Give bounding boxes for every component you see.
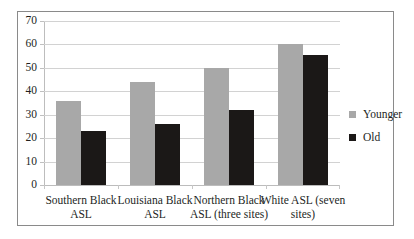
bar-younger-2[interactable]: [204, 68, 229, 185]
bar-old-3[interactable]: [303, 55, 328, 185]
bar-old-2[interactable]: [229, 110, 254, 185]
plot-area: 010203040506070 Southern Black ASLLouisi…: [44, 21, 340, 185]
bar-younger-0[interactable]: [56, 101, 81, 185]
y-tick-label-70: 70: [26, 15, 38, 27]
y-tick-label-10: 10: [26, 156, 38, 168]
category-tick: [339, 185, 340, 189]
legend-swatch-younger-icon: [349, 111, 356, 118]
bar-group: [266, 21, 340, 185]
legend-label-younger: Younger: [363, 109, 402, 121]
bar-younger-1[interactable]: [130, 82, 155, 185]
bar-group: [118, 21, 192, 185]
legend-swatch-old-icon: [349, 134, 356, 141]
legend-label-old: Old: [363, 132, 380, 144]
category-tick: [192, 185, 193, 189]
category-tick: [118, 185, 119, 189]
y-tick-label-20: 20: [26, 132, 38, 144]
legend-item-old[interactable]: Old: [349, 131, 402, 144]
bar-old-1[interactable]: [155, 124, 180, 185]
legend: Younger Old: [349, 108, 402, 154]
bar-younger-3[interactable]: [278, 44, 303, 185]
category-label: White ASL (seven sites): [260, 193, 346, 221]
category-group: White ASL (seven sites): [266, 21, 340, 185]
category-tick: [44, 185, 45, 189]
legend-item-younger[interactable]: Younger: [349, 108, 402, 121]
y-tick-label-0: 0: [31, 179, 37, 191]
category-tick: [266, 185, 267, 189]
y-tick-label-30: 30: [26, 109, 38, 121]
y-tick-label-50: 50: [26, 62, 38, 74]
category-axis: Southern Black ASLLouisiana Black ASLNor…: [44, 21, 340, 185]
bar-group: [192, 21, 266, 185]
bar-group: [44, 21, 118, 185]
y-tick-label-40: 40: [26, 86, 38, 98]
chart-container: 010203040506070 Southern Black ASLLouisi…: [17, 11, 394, 226]
bar-old-0[interactable]: [81, 131, 106, 185]
category-group: Southern Black ASL: [44, 21, 118, 185]
y-tick-label-60: 60: [26, 39, 38, 51]
category-group: Northern Black ASL (three sites): [192, 21, 266, 185]
category-group: Louisiana Black ASL: [118, 21, 192, 185]
